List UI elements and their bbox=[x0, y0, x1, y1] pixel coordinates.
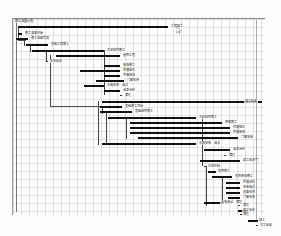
task-bar bbox=[104, 65, 120, 67]
task-bar bbox=[226, 187, 240, 189]
task-label: 施工准备完成 bbox=[30, 36, 50, 40]
task-bar bbox=[102, 143, 196, 145]
task-bar bbox=[256, 225, 258, 226]
task-bar bbox=[226, 182, 240, 184]
task-label: 设备安装 bbox=[242, 190, 256, 194]
task-label: 油漆涂料 bbox=[122, 88, 136, 92]
task-bar bbox=[100, 111, 132, 113]
task-bar bbox=[100, 106, 122, 108]
task-label: 竣工验收完 bbox=[242, 158, 259, 162]
task-label: 外墙装饰 bbox=[122, 73, 136, 77]
task-bar bbox=[16, 38, 28, 40]
task-bar bbox=[204, 166, 206, 167]
task-label: 施工准备开始 bbox=[24, 31, 44, 35]
task-label: 装饰施工 bbox=[122, 63, 136, 67]
task-label: 清理 bbox=[242, 212, 250, 216]
mouse-pointer-icon bbox=[176, 26, 182, 34]
connector-line bbox=[106, 111, 107, 143]
task-label: 竣工 bbox=[258, 218, 266, 222]
connector-line bbox=[126, 117, 127, 139]
task-label: 地面施工 bbox=[217, 169, 231, 173]
task-label: 安装调试 bbox=[242, 185, 256, 189]
task-label: 门窗安装 bbox=[240, 135, 254, 139]
task-bar bbox=[204, 149, 230, 151]
task-label: 主体结构施工 bbox=[106, 48, 126, 52]
connector-line bbox=[222, 176, 223, 202]
task-bar bbox=[32, 50, 104, 52]
task-bar bbox=[228, 197, 240, 199]
task-bar bbox=[238, 205, 240, 206]
task-label: 清理 bbox=[228, 153, 236, 157]
task-label: 主体结构施工 bbox=[198, 115, 218, 119]
task-label: 内墙抹灰 bbox=[232, 125, 246, 129]
task-bar bbox=[104, 75, 120, 77]
task-label: 清理 bbox=[242, 203, 250, 207]
task-bar bbox=[80, 70, 120, 72]
task-bar bbox=[130, 127, 230, 129]
task-bar bbox=[108, 117, 196, 119]
task-bar bbox=[130, 122, 222, 124]
task-bar bbox=[56, 55, 120, 57]
task-label: 主体开始 bbox=[207, 164, 221, 168]
task-label: 砌筑施工 bbox=[224, 120, 238, 124]
task-bar bbox=[224, 155, 226, 156]
right-margin-rule bbox=[256, 20, 257, 220]
task-label: 屋面工程 bbox=[122, 53, 136, 57]
left-margin-rule bbox=[16, 20, 17, 212]
connector-line bbox=[18, 40, 26, 41]
task-bar bbox=[26, 44, 48, 46]
task-label: 基础施工开始 bbox=[124, 104, 144, 108]
task-bar bbox=[200, 160, 240, 162]
task-bar bbox=[120, 95, 122, 96]
connector-line bbox=[206, 166, 207, 206]
task-label: 外墙涂料 bbox=[242, 180, 256, 184]
task-bar bbox=[130, 132, 230, 134]
task-bar bbox=[212, 176, 232, 178]
task-label: 外墙装饰 bbox=[232, 130, 246, 134]
task-bar bbox=[18, 33, 22, 35]
task-bar bbox=[18, 26, 168, 28]
task-bar bbox=[104, 90, 120, 92]
chart-title: 施工进度计划 bbox=[14, 19, 34, 23]
task-label: 门窗安装 bbox=[242, 195, 256, 199]
task-bar bbox=[84, 85, 104, 87]
task-label: 水电安装、调试 bbox=[198, 141, 221, 145]
task-bar bbox=[96, 80, 124, 82]
task-label: 主体验收 bbox=[49, 59, 63, 63]
task-label: 交工验收 bbox=[259, 223, 273, 227]
task-bar bbox=[138, 137, 238, 139]
task-bar bbox=[248, 220, 258, 222]
task-label: 水电调试、清理 bbox=[220, 200, 243, 204]
task-label: 竣工验收 bbox=[244, 99, 258, 103]
task-label: 基础结构施工 bbox=[134, 109, 154, 113]
task-label: 内墙抹灰 bbox=[122, 68, 136, 72]
task-label: 油漆涂料 bbox=[232, 147, 246, 151]
task-label: 清理 bbox=[124, 93, 132, 97]
task-label: 门窗安装 bbox=[126, 78, 140, 82]
task-bar bbox=[226, 192, 240, 194]
task-bar bbox=[208, 171, 216, 173]
task-label: 基础工程施工 bbox=[50, 42, 70, 46]
task-label: 水电安装、调试 bbox=[106, 83, 129, 87]
connector-line bbox=[50, 106, 100, 107]
connector-line bbox=[98, 101, 99, 145]
task-bar bbox=[102, 101, 262, 103]
task-bar bbox=[46, 61, 48, 62]
task-label: 地面装饰施工 bbox=[234, 174, 254, 178]
